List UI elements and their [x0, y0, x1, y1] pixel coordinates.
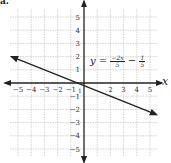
- y-tick-label: 1: [76, 66, 80, 74]
- x-tick-label: 4: [135, 86, 140, 94]
- x-tick-label: 3: [121, 86, 125, 94]
- x-axis-label: x: [162, 76, 168, 87]
- y-tick-label: 4: [76, 27, 81, 35]
- x-tick-label: 5: [148, 86, 152, 94]
- x-tick-label: −5: [13, 86, 23, 94]
- x-tick-label: 2: [108, 86, 112, 94]
- y-tick-label: 5: [76, 14, 80, 22]
- y-tick-label: −2: [70, 106, 80, 114]
- x-tick-label: −4: [26, 86, 37, 94]
- y-tick-label: 2: [76, 53, 80, 61]
- fraction-1: −2x 5: [110, 55, 124, 68]
- equation-operator: −: [128, 55, 136, 66]
- coordinate-plane: −5−4−3−2−1234554321−1−2−3−4−51: [0, 0, 171, 163]
- x-tick-label: −3: [39, 86, 49, 94]
- equation-label: y = −2x 5 − 1 5: [90, 55, 145, 68]
- y-tick-label: −4: [70, 132, 81, 140]
- y-tick-label: −3: [70, 119, 80, 127]
- fraction-2: 1 5: [139, 55, 145, 68]
- y-tick-label: −5: [70, 146, 80, 154]
- x-tick-label: −2: [52, 86, 62, 94]
- y-tick-label: 1: [78, 87, 82, 94]
- equation-lhs: y =: [90, 55, 107, 66]
- y-tick-label: 3: [76, 40, 80, 48]
